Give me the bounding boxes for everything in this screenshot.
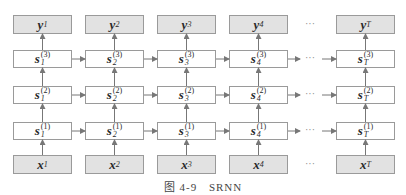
figure-caption: 图 4-9 SRNN — [0, 178, 406, 194]
figure-label: 图 4-9 — [164, 181, 197, 193]
arrows-layer — [0, 0, 406, 195]
figure-title: SRNN — [209, 181, 242, 193]
